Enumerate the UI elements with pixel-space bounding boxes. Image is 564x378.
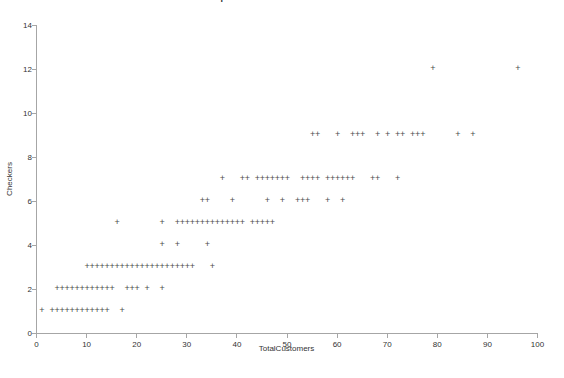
scatter-plot-figure: Scatterplot of Checkers vs TotalCustomer… [0,0,564,378]
data-point-marker: + [110,284,115,293]
data-point-marker: + [455,130,460,139]
y-tick-mark [32,157,36,158]
data-point-marker: + [315,130,320,139]
data-point-marker: + [120,306,125,315]
data-point-marker: + [400,130,405,139]
data-point-marker: + [375,174,380,183]
data-point-marker: + [335,130,340,139]
data-point-marker: + [220,174,225,183]
data-point-marker: + [39,306,44,315]
data-point-marker: + [265,196,270,205]
data-point-marker: + [115,218,120,227]
data-point-marker: + [230,196,235,205]
x-tick-mark [337,334,338,338]
data-point-marker: + [190,262,195,271]
data-point-marker: + [340,196,345,205]
x-axis-label: TotalCustomers [36,344,537,353]
y-axis-label: Checkers [5,162,14,196]
y-tick-label: 10 [10,109,32,118]
data-point-marker: + [175,240,180,249]
data-point-marker: + [420,130,425,139]
y-tick-label: 12 [10,65,32,74]
x-tick-mark [236,334,237,338]
y-tick-label: 0 [10,329,32,338]
y-tick-mark [32,25,36,26]
y-tick-mark [32,113,36,114]
data-point-marker: + [205,240,210,249]
y-tick-label: 4 [10,241,32,250]
y-tick-mark [32,333,36,334]
data-point-marker: + [395,174,400,183]
x-tick-mark [86,334,87,338]
y-tick-mark [32,289,36,290]
y-tick-label: 8 [10,153,32,162]
data-point-marker: + [430,64,435,73]
y-tick-mark [32,201,36,202]
data-point-marker: + [210,262,215,271]
data-point-marker: + [104,306,109,315]
data-point-marker: + [515,64,520,73]
data-point-marker: + [160,240,165,249]
data-point-marker: + [270,218,275,227]
data-point-marker: + [160,284,165,293]
y-tick-mark [32,69,36,70]
data-point-marker: + [360,130,365,139]
data-point-marker: + [285,174,290,183]
x-tick-mark [387,334,388,338]
x-tick-mark [487,334,488,338]
x-tick-mark [136,334,137,338]
x-tick-mark [287,334,288,338]
data-point-marker: + [135,284,140,293]
data-point-marker: + [240,218,245,227]
data-point-marker: + [375,130,380,139]
x-tick-mark [537,334,538,338]
y-tick-label: 2 [10,285,32,294]
y-tick-mark [32,245,36,246]
data-point-marker: + [245,174,250,183]
plot-area: 010203040506070809010002468101214+++++++… [36,25,538,334]
x-tick-mark [437,334,438,338]
data-point-marker: + [160,218,165,227]
x-tick-mark [186,334,187,338]
data-point-marker: + [205,196,210,205]
data-point-marker: + [350,174,355,183]
y-tick-label: 6 [10,197,32,206]
data-point-marker: + [145,284,150,293]
data-point-marker: + [315,174,320,183]
data-point-marker: + [385,130,390,139]
data-point-marker: + [305,196,310,205]
x-tick-mark [36,334,37,338]
y-tick-label: 14 [10,21,32,30]
chart-title: Scatterplot of Checkers vs TotalCustomer… [0,0,564,3]
data-point-marker: + [325,196,330,205]
data-point-marker: + [470,130,475,139]
data-point-marker: + [280,196,285,205]
